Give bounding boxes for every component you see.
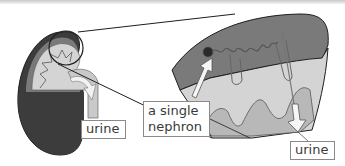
label-nephron-line2: nephron <box>148 119 205 135</box>
label-urine-left: urine <box>81 120 126 139</box>
glomerulus <box>203 47 213 57</box>
label-nephron-line1: a single <box>148 103 205 119</box>
label-urine-right: urine <box>290 141 335 160</box>
label-single-nephron: a single nephron <box>143 101 210 137</box>
zoom-line-top <box>78 14 235 32</box>
